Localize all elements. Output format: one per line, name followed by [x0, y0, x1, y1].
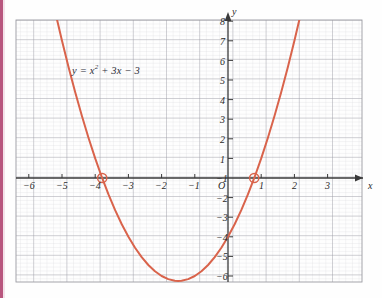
y-axis-arrow-icon	[225, 12, 232, 21]
y-tick-label--4: −4	[216, 233, 228, 243]
equation-annotation: y = x2 + 3x − 3	[72, 63, 140, 76]
page-footer-text	[8, 286, 378, 298]
x-tick-label--5: −5	[56, 181, 68, 191]
x-tick-label--3: −3	[122, 181, 134, 191]
y-axis-label: y	[232, 6, 236, 17]
x-tick-label--6: −6	[23, 181, 35, 191]
y-tick-label-5: 5	[220, 76, 225, 86]
y-tick-label-1: 1	[220, 155, 225, 165]
y-tick-label-2: 2	[220, 135, 225, 145]
y-tick-label--6: −6	[216, 272, 228, 282]
graph-plot	[0, 0, 382, 298]
x-tick-label-3: 3	[325, 181, 330, 191]
equation-lhs: y	[72, 65, 77, 76]
x-tick-label--4: −4	[89, 181, 101, 191]
y-tick-label--3: −3	[216, 213, 228, 223]
figure-container: y = x2 + 3x − 3 −6 −5 −4 −3 −2 −1 O 1 2 …	[0, 0, 382, 298]
equation-rest: + 3x − 3	[101, 65, 140, 76]
equation-exponent: 2	[95, 63, 99, 71]
y-tick-label-3: 3	[220, 115, 225, 125]
x-tick-label--2: −2	[155, 181, 167, 191]
y-tick-label-8: 8	[220, 17, 225, 27]
y-tick-label--1: −1	[216, 174, 228, 184]
x-axis-label: x	[368, 180, 372, 191]
x-tick-label-2: 2	[292, 181, 297, 191]
x-tick-label-1: 1	[259, 181, 264, 191]
y-tick-label--2: −2	[216, 194, 228, 204]
x-tick-label--1: −1	[188, 181, 200, 191]
y-tick-label-4: 4	[220, 96, 225, 106]
y-tick-label-6: 6	[220, 57, 225, 67]
y-tick-label-7: 7	[220, 37, 225, 47]
grid-major	[16, 20, 362, 282]
y-tick-label--5: −5	[216, 252, 228, 262]
equation-equals: =	[80, 65, 87, 76]
